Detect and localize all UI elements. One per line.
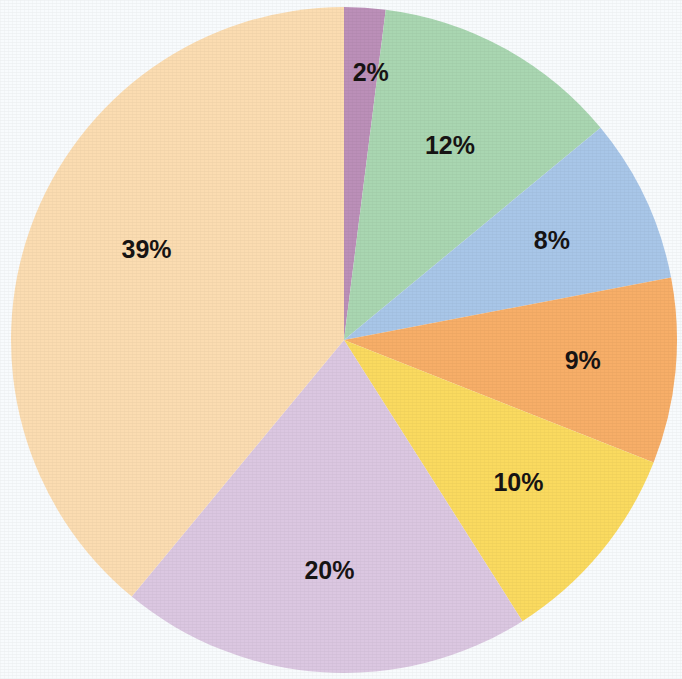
pie-slice-label-9: 9% xyxy=(565,346,601,374)
pie-slice-label-10: 10% xyxy=(493,468,543,496)
pie-slice-label-12: 12% xyxy=(425,131,475,159)
pie-slice-label-39: 39% xyxy=(122,235,172,263)
pie-slice-label-2: 2% xyxy=(353,58,389,86)
pie-chart-figure: 2%12%8%9%10%20%39% xyxy=(0,0,682,679)
pie-slice-label-8: 8% xyxy=(534,226,570,254)
pie-chart-svg: 2%12%8%9%10%20%39% xyxy=(0,0,682,679)
pie-slice-label-20: 20% xyxy=(304,556,354,584)
